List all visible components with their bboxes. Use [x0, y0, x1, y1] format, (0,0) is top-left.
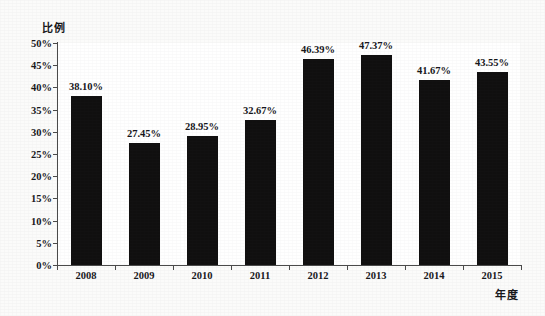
x-axis-tick [463, 265, 464, 270]
bar-value-label: 43.55% [475, 57, 509, 68]
bar [187, 136, 218, 265]
x-axis-tick-label: 2012 [308, 270, 329, 281]
x-axis-tick [173, 265, 174, 270]
x-axis-tick-label: 2009 [134, 270, 155, 281]
bar [71, 96, 102, 265]
x-axis-tick [405, 265, 406, 270]
x-axis-tick-label: 2010 [192, 270, 213, 281]
y-axis-tick [53, 243, 58, 244]
y-axis-tick [53, 65, 58, 66]
y-axis-tick [53, 176, 58, 177]
bar [361, 55, 392, 265]
y-axis-tick [53, 132, 58, 133]
y-axis-tick [53, 198, 58, 199]
x-axis-tick-label: 2013 [366, 270, 387, 281]
bar-value-label: 32.67% [243, 105, 277, 116]
y-axis-tick-label: 45% [31, 60, 52, 71]
y-axis-tick-label: 25% [31, 149, 52, 160]
x-axis-tick-label: 2008 [76, 270, 97, 281]
bar-value-label: 41.67% [417, 65, 451, 76]
y-axis-tick [53, 221, 58, 222]
y-axis-tick [53, 154, 58, 155]
y-axis-tick-label: 20% [31, 171, 52, 182]
bar-value-label: 47.37% [359, 40, 393, 51]
bar [129, 143, 160, 265]
y-axis-tick-label: 0% [36, 260, 52, 271]
y-axis-tick-label: 10% [31, 215, 52, 226]
x-axis-tick [521, 265, 522, 270]
y-axis-tick-label: 35% [31, 104, 52, 115]
y-axis-tick [53, 43, 58, 44]
y-axis-tick-label: 40% [31, 82, 52, 93]
y-axis-tick [53, 87, 58, 88]
x-axis-tick [115, 265, 116, 270]
x-axis-tick-label: 2011 [250, 270, 270, 281]
bar [245, 120, 276, 265]
bar-chart: 比例 0%5%10%15%20%25%30%35%40%45%50% 20082… [0, 0, 545, 316]
bar-value-label: 27.45% [127, 128, 161, 139]
x-axis-title: 年度 [495, 286, 518, 302]
bar-value-label: 46.39% [301, 44, 335, 55]
y-axis-tick [53, 110, 58, 111]
y-axis-tick-label: 15% [31, 193, 52, 204]
x-axis-tick-label: 2015 [482, 270, 503, 281]
bar [419, 80, 450, 265]
x-axis-tick-label: 2014 [424, 270, 445, 281]
x-axis-tick [289, 265, 290, 270]
bar [477, 72, 508, 265]
y-axis-tick-label: 50% [31, 38, 52, 49]
plot-area [57, 43, 520, 265]
y-axis-tick-label: 30% [31, 126, 52, 137]
y-axis-title: 比例 [42, 19, 65, 35]
bar-value-label: 28.95% [185, 121, 219, 132]
x-axis-tick [347, 265, 348, 270]
bar-value-label: 38.10% [69, 81, 103, 92]
x-axis-tick [231, 265, 232, 270]
y-axis-tick-label: 5% [36, 237, 52, 248]
bar [303, 59, 334, 265]
x-axis-tick [57, 265, 58, 270]
